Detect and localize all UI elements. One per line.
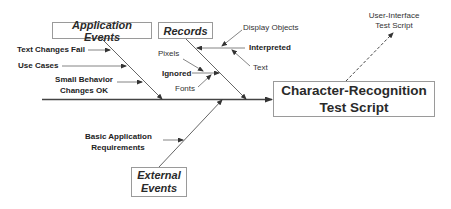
category-label: Application Events <box>53 19 151 43</box>
effect-line1: Character-Recognition <box>281 82 427 99</box>
effect-line2: Test Script <box>320 99 389 116</box>
effect-box: Character-Recognition Test Script <box>273 81 435 117</box>
output-user-interface-test-script: User-Interface Test Script <box>367 11 421 31</box>
cause-ignored: Ignored <box>162 69 191 79</box>
category-records: Records <box>158 22 213 39</box>
category-application-events: Application Events <box>52 22 152 39</box>
category-label: Records <box>163 25 207 37</box>
subcause-display-objects: Display Objects <box>243 23 299 33</box>
subcause-fonts: Fonts <box>175 84 195 94</box>
category-external-events: External Events <box>131 167 187 197</box>
category-label-line2: Events <box>141 182 177 195</box>
cause-small-behavior: Small Behavior Changes OK <box>55 75 113 96</box>
subcause-pixels: Pixels <box>158 49 179 59</box>
cause-use-cases: Use Cases <box>18 61 58 71</box>
cause-basic-application-requirements: Basic Application Requirements <box>85 132 151 153</box>
external-events-bone <box>159 100 222 167</box>
subcause-text: Text <box>253 63 268 73</box>
category-label-line1: External <box>137 169 180 182</box>
output-arrow <box>346 33 393 81</box>
cause-interpreted: Interpreted <box>249 43 291 53</box>
cause-text-changes-fail: Text Changes Fail <box>17 45 85 55</box>
